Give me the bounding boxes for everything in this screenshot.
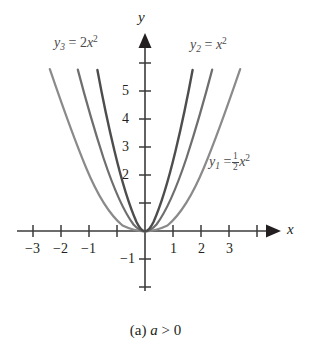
y-tick-label-5: 5	[122, 84, 129, 98]
curve-label-y2: y2 = x2	[190, 37, 227, 54]
curve-label-y3: y3 = 2x2	[54, 35, 98, 52]
curve-label-y3-exp: 2	[93, 34, 98, 44]
y-tick-label-4: 4	[122, 112, 129, 126]
caption-relation: > 0	[161, 322, 181, 338]
plot-area	[0, 0, 311, 318]
curve-label-y1-eq: =	[223, 154, 231, 169]
curve-label-y3-coef: 2	[80, 35, 87, 50]
x-tick-label-3: 3	[226, 242, 233, 256]
x-tick-label-2: 2	[198, 242, 205, 256]
y-tick-label-2: 2	[122, 168, 129, 182]
x-axis-label: x	[287, 222, 294, 237]
curve-label-y1: y1 =12x2	[209, 152, 250, 172]
y-axis-arrowhead	[139, 33, 152, 48]
curve-label-y1-sub: 1	[215, 161, 220, 171]
y-axis-label: y	[138, 10, 145, 25]
caption-variable: a	[150, 322, 158, 338]
curve-label-y1-fraction: 12	[232, 152, 239, 172]
curve-label-y3-sub: 3	[60, 42, 65, 52]
y-tick-label-neg1: −1	[120, 252, 135, 266]
curve-label-y2-sub: 2	[196, 44, 201, 54]
y-tick-label-3: 3	[122, 140, 129, 154]
parabola-family-figure: y x 5 4 3 2 −3 −2 −1 1 2 3 −1 y3 = 2x2 y…	[0, 0, 311, 360]
fraction-denominator: 2	[232, 163, 239, 173]
x-axis-arrowhead	[266, 225, 281, 238]
curve-label-y3-eq: =	[68, 35, 76, 50]
x-tick-label-1: 1	[170, 242, 177, 256]
x-tick-label-neg3: −3	[25, 242, 40, 256]
curve-label-y2-eq: =	[204, 37, 212, 52]
curve-label-y1-exp: 2	[245, 153, 250, 163]
curve-label-y2-exp: 2	[222, 36, 227, 46]
figure-caption: (a) a > 0	[0, 322, 311, 339]
x-tick-label-neg2: −2	[53, 242, 68, 256]
caption-part-label: (a)	[130, 322, 147, 338]
x-tick-label-neg1: −1	[81, 242, 96, 256]
